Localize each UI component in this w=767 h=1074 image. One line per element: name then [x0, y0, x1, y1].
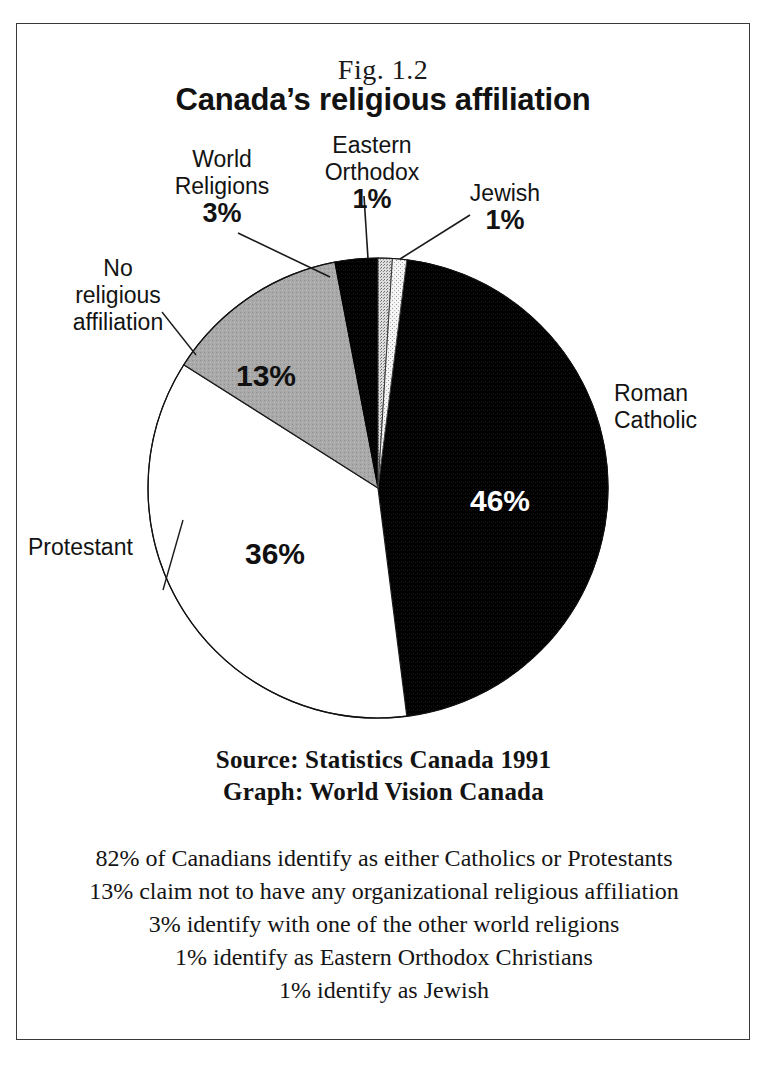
summary-list: 82% of Canadians identify as either Cath…	[34, 842, 734, 1007]
pie-chart: World Religions 3% Eastern Orthodox 1% J…	[0, 0, 767, 760]
label-roman-catholic-line1: Roman	[614, 380, 688, 406]
label-eastern-orthodox-line2: Orthodox	[325, 159, 420, 185]
label-protestant-text: Protestant	[28, 534, 133, 560]
summary-item: 1% identify as Eastern Orthodox Christia…	[34, 941, 734, 974]
source-statistics: Source: Statistics Canada 1991	[0, 746, 767, 774]
label-world-religions-line1: World	[192, 146, 252, 172]
slice-value-protestant: 36%	[245, 537, 305, 571]
label-no-affiliation-line1: No	[103, 255, 132, 281]
label-roman-catholic-line2: Catholic	[614, 407, 697, 433]
label-no-affiliation-line3: affiliation	[73, 309, 163, 335]
label-jewish-text: Jewish	[470, 180, 540, 206]
source-graph-credit: Graph: World Vision Canada	[0, 778, 767, 806]
label-no-religious-affiliation: No religious affiliation	[38, 255, 198, 336]
label-eastern-orthodox-pct: 1%	[292, 186, 452, 213]
label-roman-catholic: Roman Catholic	[614, 380, 754, 434]
summary-item: 1% identify as Jewish	[34, 974, 734, 1007]
label-jewish-pct: 1%	[440, 207, 570, 234]
label-world-religions-pct: 3%	[152, 200, 292, 227]
summary-item: 13% claim not to have any organizational…	[34, 875, 734, 908]
label-world-religions: World Religions 3%	[152, 146, 292, 227]
label-jewish: Jewish 1%	[440, 180, 570, 234]
label-no-affiliation-line2: religious	[75, 282, 161, 308]
label-eastern-orthodox: Eastern Orthodox 1%	[292, 132, 452, 213]
slice-value-no-religious-affiliation: 13%	[236, 359, 296, 393]
figure-page: Fig. 1.2 Canada’s religious affiliation	[0, 0, 767, 1074]
label-world-religions-line2: Religions	[175, 173, 270, 199]
slice-value-roman-catholic: 46%	[470, 484, 530, 518]
label-protestant: Protestant	[28, 534, 198, 561]
leader-line-world-religions	[238, 233, 330, 277]
summary-item: 3% identify with one of the other world …	[34, 908, 734, 941]
summary-item: 82% of Canadians identify as either Cath…	[34, 842, 734, 875]
label-eastern-orthodox-line1: Eastern	[332, 132, 411, 158]
